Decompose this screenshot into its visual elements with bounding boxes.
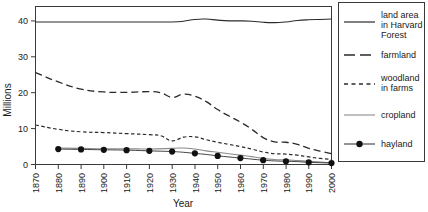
x-tick-label-1950: 1950 bbox=[213, 173, 223, 193]
series-land-area bbox=[36, 19, 332, 23]
legend-label-woodland-1: woodland bbox=[380, 73, 420, 83]
x-axis bbox=[36, 165, 332, 170]
legend-label-cropland: cropland bbox=[381, 110, 416, 120]
hayland-marker bbox=[306, 159, 312, 165]
hayland-marker bbox=[328, 160, 334, 166]
x-tick-label-1990: 1990 bbox=[304, 173, 314, 193]
legend-label-land-area-2: in Harvard bbox=[381, 20, 423, 30]
hayland-marker bbox=[78, 146, 84, 152]
series-group bbox=[36, 19, 335, 166]
legend-label-farmland: farmland bbox=[381, 50, 416, 60]
chart-figure: 0 10 20 30 40 Millions 1870 bbox=[0, 0, 428, 212]
hayland-marker bbox=[169, 148, 175, 154]
x-tick-label-1870: 1870 bbox=[31, 173, 41, 193]
x-tick-labels: 1870 1880 1890 1900 1910 1920 1930 1940 … bbox=[31, 173, 337, 193]
hayland-marker bbox=[215, 153, 221, 159]
hayland-marker bbox=[283, 158, 289, 164]
x-tick-label-1960: 1960 bbox=[236, 173, 246, 193]
x-tick-label-1920: 1920 bbox=[145, 173, 155, 193]
series-farmland bbox=[36, 73, 332, 154]
plot-frame bbox=[36, 7, 332, 165]
hayland-marker bbox=[146, 148, 152, 154]
y-tick-label-10: 10 bbox=[18, 124, 28, 134]
x-tick-label-1900: 1900 bbox=[99, 173, 109, 193]
y-axis: 0 10 20 30 40 bbox=[18, 16, 36, 170]
x-tick-label-1910: 1910 bbox=[122, 173, 132, 193]
legend-label-woodland-2: in farms bbox=[381, 83, 414, 93]
y-tick-label-30: 30 bbox=[18, 52, 28, 62]
x-tick-label-1940: 1940 bbox=[191, 173, 201, 193]
legend-label-land-area-3: Forest bbox=[381, 30, 407, 40]
x-tick-label-1880: 1880 bbox=[54, 173, 64, 193]
x-tick-label-1980: 1980 bbox=[282, 173, 292, 193]
y-tick-label-0: 0 bbox=[23, 160, 28, 170]
hayland-marker bbox=[55, 146, 61, 152]
chart-svg: 0 10 20 30 40 Millions 1870 bbox=[0, 0, 428, 212]
legend: land area in Harvard Forest farmland woo… bbox=[339, 3, 425, 162]
legend-label-hayland: hayland bbox=[381, 139, 413, 149]
y-axis-title: Millions bbox=[2, 83, 13, 116]
x-axis-title: Year bbox=[173, 198, 194, 209]
hayland-marker bbox=[192, 150, 198, 156]
legend-swatch-hayland-dot bbox=[356, 141, 362, 147]
hayland-marker bbox=[101, 147, 107, 153]
x-tick-label-1890: 1890 bbox=[77, 173, 87, 193]
hayland-marker bbox=[123, 147, 129, 153]
y-tick-label-40: 40 bbox=[18, 16, 28, 26]
x-tick-label-2000: 2000 bbox=[327, 173, 337, 193]
legend-label-land-area-1: land area bbox=[381, 10, 419, 20]
x-tick-label-1970: 1970 bbox=[259, 173, 269, 193]
hayland-marker bbox=[260, 157, 266, 163]
y-tick-label-20: 20 bbox=[18, 88, 28, 98]
x-tick-label-1930: 1930 bbox=[168, 173, 178, 193]
hayland-marker bbox=[237, 155, 243, 161]
